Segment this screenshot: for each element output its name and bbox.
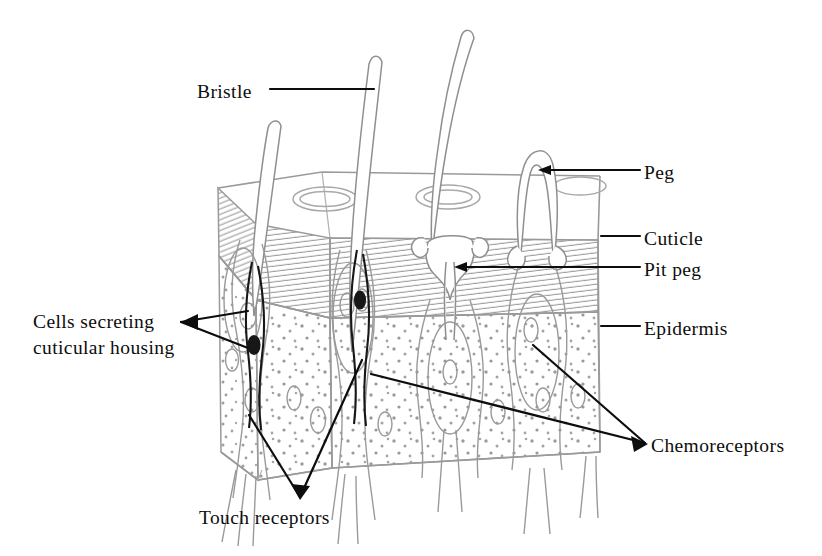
label-chemoreceptors: Chemoreceptors — [651, 433, 784, 459]
label-cuticle: Cuticle — [644, 226, 703, 252]
figure-root: Bristle Peg Cuticle Pit peg Epidermis Ch… — [0, 0, 822, 556]
label-pit-peg: Pit peg — [644, 257, 702, 283]
label-cells-secreting-cuticular-housing: Cells secreting cuticular housing — [33, 309, 175, 360]
nerve-fibres-right — [580, 456, 598, 518]
label-peg: Peg — [644, 160, 674, 186]
label-epidermis: Epidermis — [644, 316, 728, 342]
leader-touch-vertex — [291, 484, 310, 500]
leader-cells-fork-head — [181, 314, 198, 330]
touch-neuron-soma-center — [355, 292, 365, 309]
label-bristle: Bristle — [197, 79, 252, 105]
dendrite-peg-bundle — [524, 468, 550, 534]
nerve-fibres-center — [338, 474, 358, 544]
integument-block — [218, 172, 600, 480]
touch-neuron-soma-left — [249, 336, 260, 354]
label-touch-receptors: Touch receptors — [199, 505, 330, 531]
